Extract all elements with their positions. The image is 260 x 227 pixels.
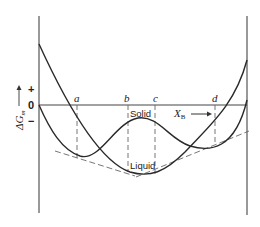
point-label-d: d bbox=[212, 92, 218, 104]
point-label-c: c bbox=[153, 92, 158, 104]
y-plus-sign: + bbox=[28, 83, 34, 95]
liquid-label: Liquid bbox=[130, 160, 155, 171]
point-label-b: b bbox=[124, 92, 130, 104]
x-axis-label: XB bbox=[173, 107, 186, 121]
free-energy-diagram: a b c d Solid Liquid XB + 0 − ΔGm bbox=[0, 0, 260, 227]
y-zero-label: 0 bbox=[28, 99, 34, 111]
y-minus-sign: − bbox=[28, 115, 34, 127]
arrowhead-icon bbox=[207, 112, 212, 117]
y-axis-label: ΔGm bbox=[13, 85, 27, 131]
solid-label: Solid bbox=[130, 108, 151, 119]
svg-text:ΔGm: ΔGm bbox=[13, 111, 27, 131]
point-label-a: a bbox=[74, 92, 80, 104]
